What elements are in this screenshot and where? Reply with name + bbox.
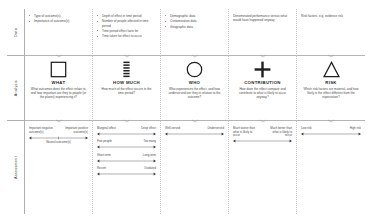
scale-axis <box>233 139 292 143</box>
chevron-down-icon <box>192 119 199 123</box>
scale-axis <box>29 136 88 140</box>
assessment-cell-contribution: Much worse than what is likely to occur … <box>229 121 297 214</box>
data-item: Demographic data <box>165 14 224 18</box>
row-label-analysis-text: Analysis <box>14 80 18 96</box>
chevron-down-icon <box>327 54 334 58</box>
scale-middle-label: Neutral outcome(s) <box>29 141 88 145</box>
assessment-cell-risk: Low risk High risk <box>297 121 365 214</box>
analysis-desc-how-much: How much of the effect occurs in the tim… <box>98 87 155 95</box>
scale-right-label: Long-term <box>129 154 156 158</box>
chevron-down-icon <box>56 54 63 58</box>
assessment-scale: Few people Too many <box>97 140 156 149</box>
data-item: Number of people affected in time period <box>97 19 156 27</box>
data-list-how-much: Depth of effect in time period Number of… <box>97 14 156 39</box>
analysis-desc-contribution: How does the effect compare and contribu… <box>234 87 291 100</box>
analysis-title-what: WHAT <box>52 80 66 85</box>
analysis-title-contribution: CONTRIBUTION <box>244 80 281 85</box>
scale-right-label: Too many <box>129 140 156 144</box>
scale-axis <box>301 132 361 136</box>
data-cell-what: Type of outcome(s) Importance of outcome… <box>25 9 93 56</box>
scale-right-label: Much better than what is likely to occur <box>265 127 292 138</box>
scale-right-label: Underserved <box>197 127 224 131</box>
chevron-down-icon <box>192 54 199 58</box>
analysis-title-how-much: HOW MUCH <box>113 80 140 85</box>
scale-right-label: Important positive outcome(s) <box>61 127 88 134</box>
data-item: Time period effect lasts for <box>97 29 156 33</box>
chevron-down-icon <box>259 54 266 58</box>
row-label-data: Data <box>7 9 25 56</box>
scale-axis <box>97 172 156 176</box>
scale-left-label: Recent <box>97 167 124 171</box>
scale-right-label: Deep effect <box>129 127 156 131</box>
data-item: Geographic data <box>165 25 224 29</box>
scale-left-label: Few people <box>97 140 124 144</box>
assessment-scale: Well-served Underserved <box>165 127 224 136</box>
square-icon <box>50 60 67 79</box>
triangle-icon <box>323 60 340 79</box>
data-item: Customisation data <box>165 19 224 23</box>
data-item: Time taken for effect to occur <box>97 34 156 38</box>
scale-left-label: Well-served <box>165 127 192 131</box>
analysis-title-risk: RISK <box>325 80 336 85</box>
analysis-cell-how-much: HOW MUCH How much of the effect occurs i… <box>93 56 161 121</box>
assessment-cell-who: Well-served Underserved <box>161 121 229 214</box>
data-item: Importance of outcome(s) <box>29 19 88 23</box>
data-item: Risk factors, e.g. evidence risk <box>301 14 361 18</box>
chevron-down-icon <box>259 119 266 123</box>
scale-left-label: Low risk <box>301 127 328 131</box>
assessment-cell-what: Important negative outcome(s) Important … <box>25 121 93 214</box>
analysis-title-who: WHO <box>189 80 200 85</box>
assessment-scale: Short-term Long-term <box>97 154 156 163</box>
scale-left-label: Marginal effect <box>97 127 124 131</box>
chevron-down-icon <box>124 54 131 58</box>
scale-axis <box>165 132 224 136</box>
analysis-cell-who: WHO Who experiences the effect, and how … <box>161 56 229 121</box>
analysis-cell-risk: RISK Which risk factors are material, an… <box>297 56 365 121</box>
assessment-scale: Recent Outdated <box>97 167 156 176</box>
analysis-cell-contribution: CONTRIBUTION How does the effect compare… <box>229 56 297 121</box>
chevron-down-icon <box>327 119 334 123</box>
row-label-analysis: Analysis <box>7 56 25 121</box>
scale-left-label: Short-term <box>97 154 124 158</box>
scale-right-label: High risk <box>334 127 361 131</box>
plus-icon <box>254 60 271 79</box>
chevron-down-icon <box>56 119 63 123</box>
bars-icon <box>118 60 135 79</box>
assessment-scale: Marginal effect Deep effect <box>97 127 156 136</box>
scale-right-label: Outdated <box>129 167 156 171</box>
data-cell-who: Demographic data Customisation data Geog… <box>161 9 229 56</box>
data-cell-risk: Risk factors, e.g. evidence risk <box>297 9 365 56</box>
scale-axis <box>97 132 156 136</box>
data-item: Type of outcome(s) <box>29 14 88 18</box>
framework-grid: Data Type of outcome(s) Importance of ou… <box>7 9 365 214</box>
analysis-desc-what: What outcomes does the effect relate to,… <box>30 87 87 100</box>
assessment-scale: Important negative outcome(s) Important … <box>29 127 88 145</box>
assessment-scale: Low risk High risk <box>301 127 361 136</box>
assessment-cell-how-much: Marginal effect Deep effect Few people T… <box>93 121 161 214</box>
analysis-desc-risk: Which risk factors are material, and how… <box>302 87 360 100</box>
row-label-assessment: Assessment <box>7 121 25 214</box>
data-list-who: Demographic data Customisation data Geog… <box>165 14 224 29</box>
row-label-assessment-text: Assessment <box>14 156 18 179</box>
analysis-desc-who: Who experiences the effect, and how unde… <box>166 87 223 100</box>
scale-left-label: Much worse than what is likely to occur <box>233 127 260 138</box>
data-cell-contribution: Denominated performance versus what woul… <box>229 9 297 56</box>
data-item: Depth of effect in time period <box>97 14 156 18</box>
framework-diagram: Data Type of outcome(s) Importance of ou… <box>0 0 371 224</box>
circle-icon <box>186 60 203 79</box>
scale-axis <box>97 145 156 149</box>
scale-left-label: Important negative outcome(s) <box>29 127 56 134</box>
scale-axis <box>97 159 156 163</box>
chevron-down-icon <box>124 119 131 123</box>
row-label-data-text: Data <box>14 28 18 37</box>
data-cell-how-much: Depth of effect in time period Number of… <box>93 9 161 56</box>
analysis-cell-what: WHAT What outcomes does the effect relat… <box>25 56 93 121</box>
assessment-scale: Much worse than what is likely to occur … <box>233 127 292 143</box>
data-list-what: Type of outcome(s) Importance of outcome… <box>29 14 88 24</box>
data-item: Denominated performance versus what woul… <box>233 14 292 22</box>
